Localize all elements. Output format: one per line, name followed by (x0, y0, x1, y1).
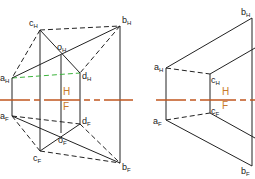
label-right-aH: aH (154, 63, 163, 73)
label-left-oH: oH (57, 43, 66, 53)
right-axis-label-H: H (222, 87, 229, 97)
edge-aH-dH-green (12, 73, 80, 78)
label-left-oF: oF (58, 136, 67, 146)
edge-aF-cF (12, 116, 40, 151)
label-left-bH: bH (122, 16, 131, 26)
edge-dF-bF (80, 124, 120, 163)
label-right-bF: bF (241, 167, 250, 177)
label-right-aF: aF (153, 117, 162, 127)
label-left-aF: aF (0, 112, 9, 122)
left-axis-label-H: H (63, 87, 70, 97)
projection-diagram (0, 0, 255, 179)
label-right-bH: bH (241, 8, 250, 18)
edge-cH-out-right (210, 48, 255, 74)
edge-cH-bH (40, 26, 120, 30)
label-left-dF: dF (82, 117, 91, 127)
label-left-aH: aH (0, 74, 9, 84)
label-left-cH: cH (29, 19, 38, 29)
edge-aF-cF-right (166, 113, 210, 120)
label-left-bF: bF (122, 163, 131, 173)
left-axis-label-F: F (63, 102, 69, 112)
edge-aF-bF-right (166, 120, 252, 166)
label-right-cH: cH (211, 76, 220, 86)
edge-aH-bH-right (166, 18, 252, 68)
label-right-cF: cF (211, 107, 219, 117)
edge-cF-bF (40, 151, 120, 163)
edge-bH-dH (80, 26, 120, 73)
label-left-cF: cF (33, 154, 41, 164)
edge-aH-cH-right (166, 68, 210, 74)
label-left-dH: dH (82, 72, 91, 82)
right-axis-label-F: F (222, 101, 228, 111)
right-figure (166, 18, 255, 166)
